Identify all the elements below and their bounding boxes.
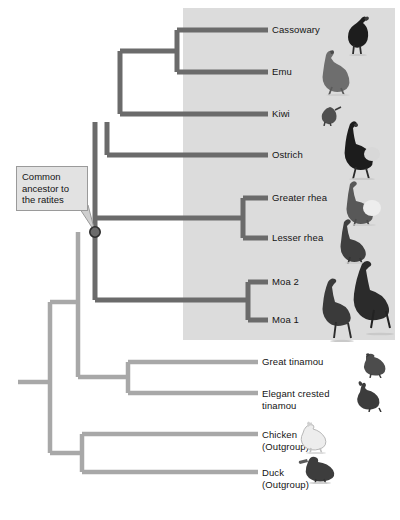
great-tinamou-icon (354, 348, 390, 378)
tip-label-lesser-rhea: Lesser rhea (272, 232, 323, 244)
duck-icon (294, 452, 338, 484)
tip-label-emu: Emu (272, 66, 292, 78)
elegant-crested-tinamou-icon (352, 380, 390, 412)
tip-label-great-tinamou: Great tinamou (262, 356, 324, 368)
tip-label-moa-2: Moa 2 (272, 276, 299, 288)
tip-label-ostrich: Ostrich (272, 149, 303, 161)
tip-label-greater-rhea: Greater rhea (272, 192, 327, 204)
phylogenetic-tree-figure: Common ancestor to the ratites Cassowary… (0, 0, 400, 520)
callout-text: Common ancestor to the ratites (22, 171, 69, 205)
ratite-ancestor-node[interactable] (90, 227, 100, 237)
emu-icon (310, 46, 362, 96)
tip-label-elegant-crested-tinamou: Elegant crested tinamou (262, 388, 330, 411)
tip-label-moa-1: Moa 1 (272, 314, 299, 326)
tip-label-kiwi: Kiwi (272, 108, 290, 120)
tip-label-cassowary: Cassowary (272, 24, 320, 36)
chicken-icon (292, 418, 332, 454)
ostrich-icon (330, 118, 386, 180)
common-ancestor-callout: Common ancestor to the ratites (16, 166, 88, 211)
moa-icon (310, 256, 396, 342)
